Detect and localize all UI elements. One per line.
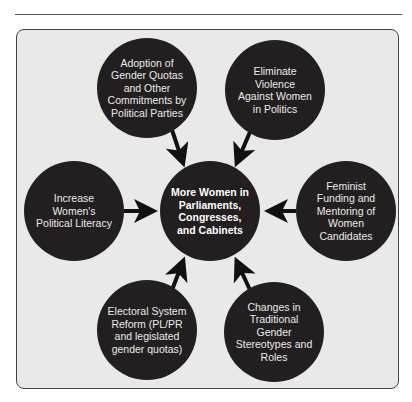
node-feminist-funding: Feminist Funding and Mentoring of Women … [296, 161, 396, 261]
arrow-top-right [238, 132, 250, 160]
node-label: Increase Women's Political Literacy [34, 192, 114, 230]
node-label: Electoral System Reform (PL/PR and legis… [105, 305, 189, 355]
node-gender-quotas: Adoption of Gender Quotas and Other Comm… [97, 38, 197, 138]
arrow-bottom-right [238, 264, 250, 290]
node-eliminate-violence: Eliminate Violence Against Women in Poli… [225, 40, 325, 140]
node-label: Changes in Traditional Gender Stereotype… [234, 301, 314, 364]
center-label: More Women in Parliaments, Congresses, a… [170, 186, 250, 236]
node-center-goal: More Women in Parliaments, Congresses, a… [160, 161, 260, 261]
arrow-top-left [172, 130, 182, 160]
node-label: Feminist Funding and Mentoring of Women … [310, 180, 382, 243]
node-label: Eliminate Violence Against Women in Poli… [237, 65, 313, 115]
arrow-bottom-left [172, 264, 182, 290]
node-political-literacy: Increase Women's Political Literacy [24, 161, 124, 261]
node-gender-stereotypes: Changes in Traditional Gender Stereotype… [224, 282, 324, 382]
node-electoral-reform: Electoral System Reform (PL/PR and legis… [97, 280, 197, 380]
node-label: Adoption of Gender Quotas and Other Comm… [105, 57, 189, 120]
